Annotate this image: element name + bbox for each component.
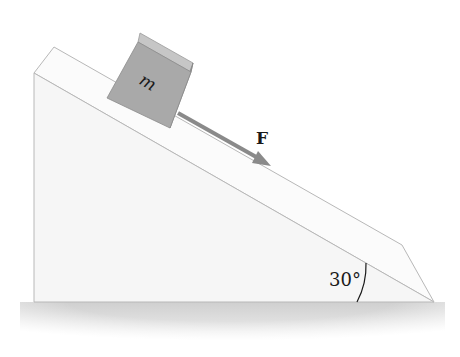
force-label: F (256, 128, 268, 148)
diagram-graphics (0, 0, 460, 357)
incline-front-face (34, 73, 434, 302)
ground-shadow (0, 302, 460, 357)
inclined-plane-diagram: m F 30° (0, 0, 460, 357)
angle-label: 30° (329, 269, 361, 290)
